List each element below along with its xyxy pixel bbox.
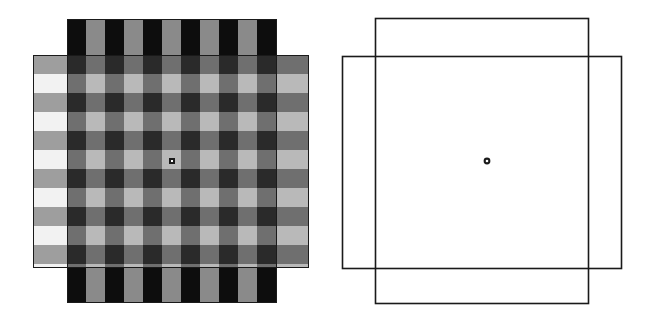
plaid-cell xyxy=(257,150,276,169)
plaid-cell xyxy=(181,93,200,112)
plaid-cell xyxy=(257,112,276,131)
plaid-cell xyxy=(143,188,162,207)
plaid-cell xyxy=(143,150,162,169)
plaid-cell xyxy=(162,112,181,131)
left-panel xyxy=(0,0,330,320)
plaid-cell xyxy=(200,131,219,150)
plaid-cell xyxy=(257,188,276,207)
plaid-cell xyxy=(257,226,276,245)
plaid-cell xyxy=(67,150,86,169)
plaid-cell xyxy=(181,188,200,207)
plaid-cell xyxy=(238,74,257,93)
plaid-cell xyxy=(33,55,67,74)
plaid-cell xyxy=(67,188,86,207)
plaid-cell xyxy=(143,93,162,112)
plaid-cell xyxy=(67,207,86,226)
plaid-cell xyxy=(105,131,124,150)
plaid-cell xyxy=(200,169,219,188)
plaid-cell xyxy=(143,226,162,245)
plaid-cell xyxy=(181,112,200,131)
plaid-cell xyxy=(276,93,309,112)
plaid-cell xyxy=(33,226,67,245)
plaid-cell xyxy=(238,112,257,131)
plaid-cell xyxy=(86,207,105,226)
plaid-cell xyxy=(86,74,105,93)
plaid-cell xyxy=(67,93,86,112)
plaid-cell xyxy=(238,131,257,150)
plaid-cell xyxy=(124,188,143,207)
plaid-cell xyxy=(124,207,143,226)
plaid-cell xyxy=(238,150,257,169)
plaid-cell xyxy=(200,245,219,264)
plaid-cell xyxy=(257,93,276,112)
plaid-cell xyxy=(67,169,86,188)
plaid-cell xyxy=(33,188,67,207)
plaid-cell xyxy=(257,169,276,188)
fixation-inner-dot xyxy=(171,160,174,163)
plaid-cell xyxy=(219,131,238,150)
plaid-cell xyxy=(200,207,219,226)
plaid-cell xyxy=(238,93,257,112)
plaid-cell xyxy=(219,55,238,74)
plaid-cell xyxy=(86,169,105,188)
plaid-cell xyxy=(200,150,219,169)
plaid-cell xyxy=(257,245,276,264)
plaid-cell xyxy=(105,74,124,93)
plaid-cell xyxy=(124,112,143,131)
plaid-cell xyxy=(276,226,309,245)
plaid-cell xyxy=(238,169,257,188)
plaid-cell xyxy=(276,131,309,150)
plaid-cell xyxy=(219,169,238,188)
plaid-cell xyxy=(33,93,67,112)
plaid-cell xyxy=(105,150,124,169)
plaid-cell xyxy=(105,226,124,245)
plaid-cell xyxy=(86,55,105,74)
plaid-cell xyxy=(33,74,67,93)
plaid-cell xyxy=(124,169,143,188)
plaid-cell xyxy=(162,169,181,188)
plaid-cell xyxy=(238,55,257,74)
right-panel-svg xyxy=(330,0,654,320)
plaid-cell xyxy=(181,207,200,226)
figure-canvas xyxy=(0,0,654,320)
plaid-cell xyxy=(162,131,181,150)
plaid-cell xyxy=(219,226,238,245)
plaid-cell xyxy=(124,245,143,264)
plaid-cell xyxy=(219,93,238,112)
plaid-cell xyxy=(219,245,238,264)
plaid-cell xyxy=(181,74,200,93)
plaid-cell xyxy=(105,55,124,74)
plaid-cell xyxy=(143,245,162,264)
plaid-cell xyxy=(33,169,67,188)
plaid-cell xyxy=(124,150,143,169)
plaid-cell xyxy=(181,131,200,150)
plaid-cell xyxy=(238,207,257,226)
plaid-cell xyxy=(238,245,257,264)
plaid-cell xyxy=(257,74,276,93)
plaid-cell xyxy=(181,169,200,188)
plaid-cell xyxy=(67,112,86,131)
plaid-cell xyxy=(219,188,238,207)
plaid-cell xyxy=(86,226,105,245)
plaid-cell xyxy=(143,169,162,188)
plaid-cell xyxy=(67,55,86,74)
fixation-dot xyxy=(484,158,491,165)
plaid-cell xyxy=(33,207,67,226)
plaid-cell xyxy=(219,150,238,169)
plaid-cell xyxy=(124,74,143,93)
plaid-cell xyxy=(238,188,257,207)
plaid-cell xyxy=(86,245,105,264)
plaid-cell xyxy=(257,207,276,226)
plaid-cell xyxy=(105,112,124,131)
plaid-cell xyxy=(219,112,238,131)
plaid-cell xyxy=(162,226,181,245)
plaid-cell xyxy=(124,55,143,74)
plaid-cell xyxy=(105,245,124,264)
plaid-cell xyxy=(162,74,181,93)
plaid-cell xyxy=(124,93,143,112)
plaid-cell xyxy=(143,74,162,93)
plaid-cell xyxy=(86,112,105,131)
plaid-cell xyxy=(200,55,219,74)
plaid-cell xyxy=(143,207,162,226)
plaid-cell xyxy=(86,150,105,169)
